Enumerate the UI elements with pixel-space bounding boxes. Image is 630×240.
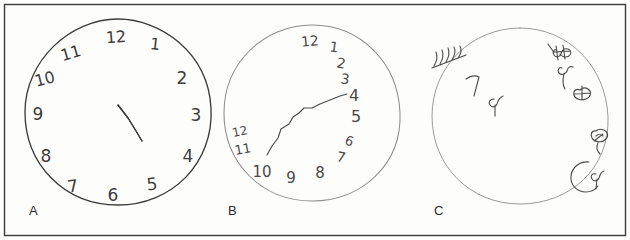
clock-numeral-a-9: 9	[33, 104, 44, 124]
clock-numeral-a-3: 3	[191, 105, 202, 125]
clock-numeral-b-0: 12	[300, 32, 319, 49]
clock-numeral-a-4: 4	[183, 146, 194, 166]
clock-numeral-a-0: 12	[105, 27, 127, 47]
clock-numeral-b-10: 10	[252, 163, 271, 181]
clock-numeral-a-8: 8	[41, 146, 52, 166]
clock-numeral-a-2: 2	[177, 68, 188, 88]
clock-drawing-figure: 121234567891011 12123456789101112	[0, 0, 630, 240]
clock-numeral-b-11: 11	[233, 140, 252, 158]
panel-label-b: B	[228, 203, 237, 218]
clock-numeral-a-6: 6	[108, 185, 119, 205]
panel-label-c: C	[434, 203, 444, 218]
clock-numeral-a-5: 5	[145, 173, 158, 194]
clock-numeral-b-9: 9	[286, 169, 296, 187]
panel-label-a: A	[29, 203, 38, 218]
figure-canvas: 121234567891011 12123456789101112	[0, 0, 630, 240]
clock-numeral-b-4: 4	[349, 86, 359, 105]
clock-numeral-b-8: 8	[315, 164, 325, 182]
clock-numeral-a-1: 1	[149, 34, 161, 54]
clock-numeral-b-5: 5	[351, 107, 361, 126]
